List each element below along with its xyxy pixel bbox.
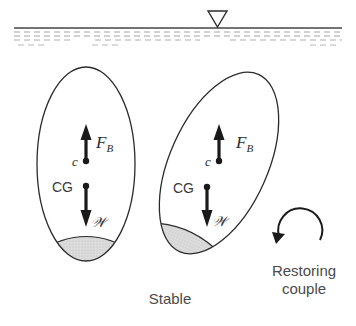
water-surface <box>14 28 342 45</box>
buoyancy-label: FB <box>235 133 253 154</box>
weight-label: 𝒲 <box>212 214 230 229</box>
buoyancy-arrow-icon <box>214 124 225 140</box>
stability-diagram: FB c CG 𝒲 FB c CG 𝒲 Restoring couple Sta… <box>0 0 356 326</box>
couple-label-line1: Restoring <box>264 262 344 280</box>
centroid-label: c <box>72 154 78 169</box>
center-of-buoyancy-dot <box>83 158 89 164</box>
curved-arrow-head-icon <box>272 232 285 244</box>
weight-arrow-icon <box>81 210 92 227</box>
tilted-body <box>119 50 313 288</box>
cg-label: CG <box>173 180 194 196</box>
couple-label-line2: couple <box>264 280 344 298</box>
weight-label: 𝒲 <box>91 215 109 230</box>
tilted-body-forces: FB c CG 𝒲 <box>173 124 253 229</box>
restoring-couple <box>272 208 322 244</box>
diagram-title: Stable <box>130 290 210 308</box>
buoyancy-arrow-icon <box>81 124 92 140</box>
free-surface-triangle-icon <box>208 11 227 27</box>
weight-arrow-icon <box>202 210 213 227</box>
centroid-label: c <box>205 154 211 169</box>
couple-label: Restoring couple <box>264 262 344 298</box>
center-of-buoyancy-dot <box>216 158 222 164</box>
buoyancy-label: FB <box>95 133 113 154</box>
upright-body: FB c CG 𝒲 <box>30 67 142 270</box>
cg-label: CG <box>52 179 73 195</box>
